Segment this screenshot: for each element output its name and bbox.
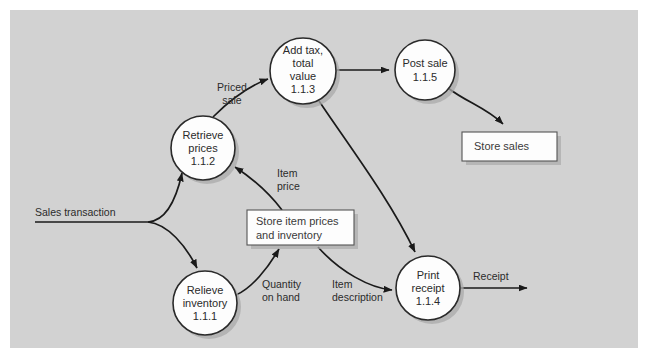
flow-label-quantity-on-hand-line2: on hand xyxy=(262,291,300,303)
process-post-sale-line1: Post sale xyxy=(402,57,447,69)
process-add-tax-line1: Add tax, xyxy=(283,44,323,56)
diagram-canvas: Store sales Store item prices and invent… xyxy=(0,0,647,361)
process-add-tax-line2: total xyxy=(293,57,314,69)
process-relieve-inventory-line2: inventory xyxy=(183,297,228,309)
flow-label-item-description-line1: Item xyxy=(332,278,353,290)
process-relieve-inventory-line1: Relieve xyxy=(187,284,224,296)
flow-label-priced-sale-line1: Priced xyxy=(217,81,247,93)
diagram-svg: Store sales Store item prices and invent… xyxy=(0,0,647,361)
process-add-tax-line3: value xyxy=(290,70,316,82)
process-relieve-inventory-number: 1.1.1 xyxy=(193,310,217,322)
process-print-receipt-line2: receipt xyxy=(411,282,444,294)
flow-sales-transaction-to-relieve-inventory xyxy=(148,222,197,268)
flow-post-sale-to-store-sales xyxy=(448,88,503,124)
flow-label-priced-sale-line2: sale xyxy=(222,94,241,106)
process-retrieve-prices-number: 1.1.2 xyxy=(191,155,215,167)
flow-label-receipt: Receipt xyxy=(473,270,509,282)
process-retrieve-prices-line1: Retrieve xyxy=(183,129,224,141)
flow-sales-transaction-to-retrieve-prices xyxy=(148,173,182,222)
flow-label-item-price-line1: Item xyxy=(277,167,298,179)
process-retrieve-prices-line2: prices xyxy=(188,142,218,154)
store-item-prices-label-line1: Store item prices xyxy=(256,215,339,227)
process-add-tax-number: 1.1.3 xyxy=(291,83,315,95)
process-print-receipt-line1: Print xyxy=(417,269,440,281)
flow-label-item-price-line2: price xyxy=(277,180,300,192)
flow-label-item-description-line2: description xyxy=(332,291,383,303)
store-item-prices-label-line2: and inventory xyxy=(256,229,323,241)
flow-item-price xyxy=(235,167,282,210)
store-sales-label: Store sales xyxy=(474,140,530,152)
flow-label-sales-transaction: Sales transaction xyxy=(35,206,116,218)
flow-item-description xyxy=(318,247,392,290)
flow-label-quantity-on-hand-line1: Quantity xyxy=(262,278,302,290)
process-post-sale-number: 1.1.5 xyxy=(413,71,437,83)
process-print-receipt-number: 1.1.4 xyxy=(416,295,440,307)
